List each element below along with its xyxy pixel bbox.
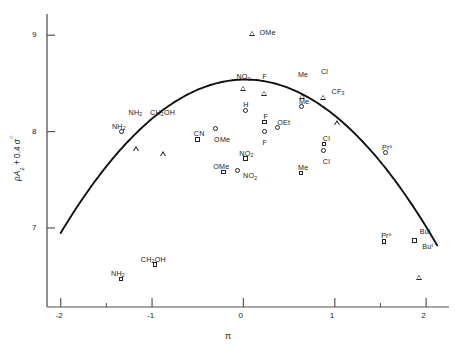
data-point-label: F xyxy=(262,139,267,146)
chart-canvas xyxy=(0,0,456,353)
x-axis-label: π xyxy=(0,331,456,341)
x-tick-label: -2 xyxy=(56,311,63,320)
data-point-label: CH2OH xyxy=(141,256,166,263)
data-point-label: NH2 xyxy=(111,270,125,277)
data-point-label: Cl xyxy=(323,158,330,165)
data-point-label: Me xyxy=(298,71,308,78)
data-point-triangle xyxy=(299,94,305,99)
data-point-label: OMe xyxy=(213,163,229,170)
x-tick-label: 2 xyxy=(421,311,425,320)
data-point-triangle xyxy=(133,146,139,151)
data-point-label: Cl xyxy=(321,68,328,75)
data-point-label: CH2OH xyxy=(150,109,175,116)
data-point-label: Me xyxy=(298,164,308,171)
data-point-triangle xyxy=(334,120,340,125)
x-tick-label: -1 xyxy=(147,311,154,320)
data-point-triangle xyxy=(240,86,246,91)
y-tick-label: 7 xyxy=(32,223,36,232)
data-point-label: CF3 xyxy=(332,88,345,95)
data-point-label: Buᵗ xyxy=(420,228,431,235)
data-point-label: NO2 xyxy=(239,150,253,157)
data-point-label: Buᵗ xyxy=(422,243,433,250)
data-point-triangle xyxy=(261,91,267,96)
y-tick-label: 8 xyxy=(32,127,36,136)
data-point-label: OEt xyxy=(277,119,290,126)
data-point-label: NO2 xyxy=(243,172,257,179)
data-point-label: F xyxy=(263,113,268,120)
data-point-label: NO2 xyxy=(236,73,250,80)
data-point-label: F xyxy=(262,73,267,80)
data-point-circle xyxy=(262,129,267,134)
data-point-label: Prⁿ xyxy=(382,144,392,151)
y-tick-label: 9 xyxy=(32,30,36,39)
data-point-label: NH2 xyxy=(129,109,143,116)
data-point-label: OMe xyxy=(260,29,276,36)
data-point-triangle xyxy=(320,95,326,100)
x-tick-label: 0 xyxy=(238,311,242,320)
data-point-square xyxy=(412,238,417,243)
data-point-label: NH2 xyxy=(112,123,126,130)
data-point-label: Cl xyxy=(323,135,330,142)
data-point-circle xyxy=(235,168,240,173)
data-point-triangle xyxy=(249,31,255,36)
data-point-circle xyxy=(213,126,218,131)
data-point-label: CN xyxy=(194,130,205,137)
data-point-label: Prⁿ xyxy=(381,232,391,239)
x-tick-label: 1 xyxy=(330,311,334,320)
data-point-label: OMe xyxy=(214,136,230,143)
figure-caption xyxy=(0,344,456,353)
data-point-triangle xyxy=(160,151,166,156)
data-point-triangle xyxy=(416,275,422,280)
data-point-label: H xyxy=(243,101,248,108)
y-axis-label: pA2 + 0.4 σ○ xyxy=(11,115,23,201)
